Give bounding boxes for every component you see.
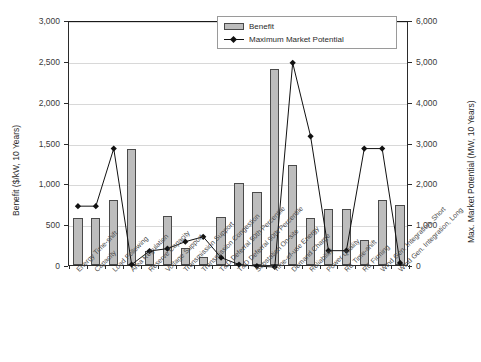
y-tick-label-left: 1,500	[20, 140, 60, 149]
diamond-marker-icon	[307, 133, 313, 139]
y-tick-label-right: 3,000	[416, 140, 456, 149]
diamond-marker-icon	[290, 60, 296, 66]
y-tick-label-right: 4,000	[416, 99, 456, 108]
diamond-marker-icon	[361, 145, 367, 151]
diamond-marker-icon	[379, 145, 385, 151]
y-tick-label-left: 2,500	[20, 58, 60, 67]
y-tick-label-right: 6,000	[416, 17, 456, 26]
diamond-marker-icon	[75, 203, 81, 209]
diamond-marker-icon	[93, 203, 99, 209]
line-marker-swatch-icon	[224, 36, 244, 44]
y-tick-label-right: 2,000	[416, 180, 456, 189]
y-tick-mark-left	[64, 266, 68, 267]
y-tick-label-left: 0	[20, 262, 60, 271]
bar-swatch-icon	[224, 23, 244, 30]
y-axis-left-title: Benefit ($/kW, 10 Years)	[11, 125, 21, 216]
x-axis-labels: Energy Time-shiftCapacityLoad FollowingA…	[68, 268, 408, 362]
y-tick-label-left: 2,000	[20, 99, 60, 108]
y-tick-label-left: 1,000	[20, 180, 60, 189]
chart-legend: Benefit Maximum Market Potential	[217, 16, 397, 49]
chart-container: Benefit ($/kW, 10 Years) Max. Market Pot…	[0, 0, 481, 362]
y-tick-label-left: 3,000	[20, 17, 60, 26]
legend-item-max-market-potential: Maximum Market Potential	[224, 33, 390, 46]
y-tick-label-right: 0	[416, 262, 456, 271]
y-axis-right-title: Max. Market Potential (MW, 10 Years)	[466, 100, 476, 243]
y-tick-label-right: 5,000	[416, 58, 456, 67]
y-tick-label-left: 500	[20, 221, 60, 230]
diamond-marker-icon	[111, 145, 117, 151]
legend-item-label: Maximum Market Potential	[249, 35, 344, 44]
legend-item-benefit: Benefit	[224, 20, 390, 33]
legend-item-label: Benefit	[249, 22, 274, 31]
